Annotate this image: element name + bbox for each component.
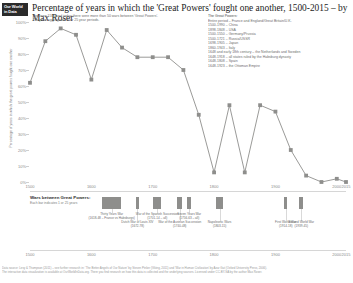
war-bar[interactable] [299,197,303,209]
logo-line-2: in Data [4,9,27,14]
data-point-marker[interactable] [304,174,308,178]
y-tick-mark [26,118,29,119]
y-tick-label: 100% [16,20,26,25]
war-label: Second World War(1939-45) [288,221,314,229]
y-tick-mark [26,182,29,183]
war-label: Seven Years War(1756-63 – all) [177,213,201,221]
y-tick-label: 80% [18,52,26,57]
war-label-line: (1803-15) [208,225,231,229]
plot-area [30,22,346,182]
y-tick-label: 50% [18,100,26,105]
y-tick-label: 20% [18,148,26,153]
war-bar[interactable] [177,197,182,209]
data-point-marker[interactable] [89,78,93,82]
y-tick-mark [26,70,29,71]
data-point-marker[interactable] [289,148,293,152]
war-label: Napoleonic Wars(1803-15) [208,221,231,229]
war-label-line: (1740-48) [158,225,201,229]
data-point-marker[interactable] [274,110,278,114]
y-tick-label: 90% [18,36,26,41]
y-tick-label: 70% [18,68,26,73]
x-tick-label: 2015 [342,252,351,257]
x-tick-label: 1800 [210,184,219,189]
y-axis-label: Percentage of years in which the great p… [9,23,13,173]
war-bar[interactable] [216,197,223,209]
chart-page: Our World in Data Percentage of years in… [0,0,353,283]
data-point-marker[interactable] [120,46,124,50]
war-label-line: (1939-45) [288,225,314,229]
x-tick-label: 1900 [271,184,280,189]
war-label: Dutch War of Louis XIV(1672-78) [121,221,153,229]
x-tick-label: 1800 [210,252,219,257]
y-tick-label: 30% [18,132,26,137]
war-bar[interactable] [136,197,140,209]
x-tick-label: 1500 [26,184,35,189]
data-point-marker[interactable] [135,55,139,59]
y-tick-mark [26,22,29,23]
x-tick-label: 2000 [332,184,341,189]
x-tick-label: 1900 [271,252,280,257]
y-tick-mark [26,86,29,87]
x-tick-label: 1600 [87,184,96,189]
axis-rule-bottom [30,250,346,251]
series-line [30,22,346,182]
y-tick-mark [26,54,29,55]
wars-panel-title: Wars between Great Powers: [30,195,90,200]
war-bar[interactable] [102,197,120,209]
x-tick-label: 1600 [87,252,96,257]
y-axis: 100%90%80%70%60%50%40%30%20%10%0% [0,22,28,182]
data-point-marker[interactable] [335,177,339,181]
war-bar[interactable] [187,197,191,209]
x-tick-label: 1700 [148,252,157,257]
footer-line: The interactive data visualization is av… [2,270,351,274]
wars-panel: Wars between Great Powers: Each bar indi… [30,191,346,249]
war-label-line: (1672-78) [121,225,153,229]
data-point-marker[interactable] [320,180,324,184]
war-label-line: (1756-63 – all) [177,217,201,221]
data-point-marker[interactable] [228,103,232,107]
data-point-marker[interactable] [182,68,186,72]
data-point-marker[interactable] [28,81,32,85]
series-polyline [30,28,346,182]
data-point-marker[interactable] [243,171,247,175]
data-point-marker[interactable] [105,28,109,32]
data-point-marker[interactable] [197,113,201,117]
war-label: War of the Austrian Succession(1740-48) [158,221,201,229]
y-tick-mark [26,166,29,167]
y-tick-mark [26,102,29,103]
data-point-marker[interactable] [59,27,63,31]
our-world-in-data-logo[interactable]: Our World in Data [2,3,28,16]
war-bar[interactable] [153,197,161,209]
x-tick-label: 2000 [332,252,341,257]
data-point-marker[interactable] [166,55,170,59]
war-bar[interactable] [284,197,287,209]
y-tick-label: 60% [18,84,26,89]
chart-footer: Data source: Levy & Thompson (2011) – se… [2,266,351,275]
data-point-marker[interactable] [258,103,262,107]
x-tick-label: 1700 [148,184,157,189]
data-point-marker[interactable] [43,39,47,43]
x-tick-label: 2015 [342,184,351,189]
data-point-marker[interactable] [151,55,155,59]
y-tick-mark [26,150,29,151]
wars-panel-subtitle: Each bar indicates 1 or 25 years [30,201,77,205]
y-tick-label: 40% [18,116,26,121]
y-tick-mark [26,38,29,39]
y-tick-label: 10% [18,164,26,169]
data-point-marker[interactable] [74,33,78,37]
x-tick-label: 1500 [26,252,35,257]
y-tick-mark [26,134,29,135]
data-point-marker[interactable] [212,171,216,175]
